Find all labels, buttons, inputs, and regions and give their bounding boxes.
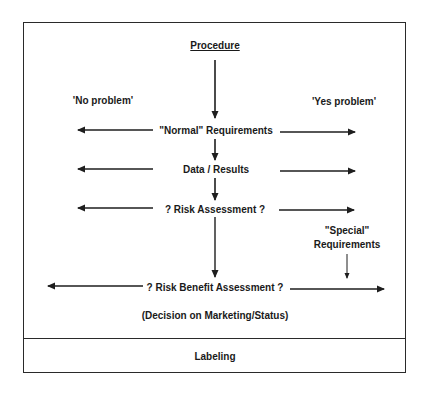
risk-benefit-assessment-step: ? Risk Benefit Assessment ? — [147, 283, 284, 293]
yes-problem-label: 'Yes problem' — [312, 97, 376, 107]
decision-note: (Decision on Marketing/Status) — [142, 311, 289, 321]
risk-assessment-step: ? Risk Assessment ? — [165, 205, 265, 215]
labeling-footer: Labeling — [194, 352, 235, 362]
procedure-title: Procedure — [190, 41, 239, 51]
arrows-layer — [0, 0, 427, 395]
special-requirements-line2: Requirements — [314, 240, 381, 250]
special-requirements-line1: "Special" — [325, 226, 370, 236]
data-results-step: Data / Results — [183, 165, 249, 175]
no-problem-label: 'No problem' — [73, 96, 133, 106]
normal-requirements-step: "Normal" Requirements — [159, 126, 272, 136]
